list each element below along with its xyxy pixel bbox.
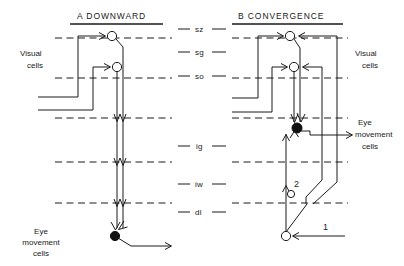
left-visual-cells-line1: Visual (20, 49, 42, 58)
layer-label-sz: sz (195, 25, 204, 34)
panel-b-return-afferent-upper (299, 33, 338, 47)
panel-b-soma-upper (285, 31, 294, 40)
panel-a-eye-movement-soma (110, 231, 119, 240)
panel-a-efferent-output (118, 238, 172, 250)
bottom-left-eye-line1: Eye (34, 227, 48, 236)
layer-row-sz: sz (178, 25, 226, 34)
layer-label-sg: sg (195, 48, 204, 57)
layer-label-ig: ig (196, 142, 203, 151)
panel-a-axon-arrowheads (114, 114, 126, 207)
right-visual-cells-line1: Visual (355, 49, 377, 58)
panel-b-descend-fiber-inner (306, 78, 322, 204)
panel-b-efferent-output (301, 131, 353, 139)
panel-b-title-group: B CONVERGENCE (232, 11, 343, 24)
right-visual-cells-line2: cells (362, 61, 378, 70)
panel-a-soma-lower (112, 62, 121, 71)
panel-b-title: B CONVERGENCE (238, 11, 324, 21)
panel-b-marker-1-label: 1 (323, 222, 328, 232)
panel-a-afferent-upper (38, 33, 106, 98)
layer-label-column: sz sg so ig iw dl (178, 25, 226, 217)
right-visual-cells-label: Visual cells (355, 49, 378, 70)
panel-b-soma-marker-1 (281, 231, 290, 240)
panel-b-diagonal-link (286, 204, 307, 232)
layer-row-ig: ig (178, 142, 226, 151)
right-eye-line2: movement (355, 130, 393, 139)
panel-a-circuit (38, 31, 172, 249)
bottom-left-eye-line3: cells (33, 249, 49, 258)
panel-a-title: A DOWNWARD (77, 11, 146, 21)
bottom-left-eye-line2: movement (22, 238, 60, 247)
right-eye-line1: Eye (358, 118, 372, 127)
panel-b-return-afferent-lower (303, 64, 323, 79)
right-eye-movement-label: Eye movement cells (355, 118, 393, 151)
layer-row-dl: dl (178, 208, 226, 217)
layer-label-so: so (195, 72, 204, 81)
panel-b-marker-2-label: 2 (294, 179, 299, 189)
left-visual-cells-label: Visual cells (20, 49, 43, 70)
panel-a-title-group: A DOWNWARD (70, 11, 163, 24)
panel-b-marker-1-input (293, 233, 346, 240)
panel-b-descend-fiber-outer (313, 46, 337, 204)
panel-b-soma-lower (289, 62, 298, 71)
panel-a-soma-upper (107, 31, 116, 40)
panel-b-afferent-upper (232, 33, 284, 99)
laminar-boundaries (55, 38, 348, 203)
panel-a-afferent-lower (38, 64, 111, 111)
layer-label-dl: dl (195, 208, 202, 217)
panel-b-soma-marker-2 (287, 190, 294, 197)
figure-canvas: A DOWNWARD B CONVERGENCE sz sg so ig (0, 0, 404, 266)
layer-row-sg: sg (178, 48, 226, 57)
layer-row-iw: iw (178, 180, 226, 189)
right-eye-line3: cells (362, 142, 378, 151)
left-visual-cells-line2: cells (27, 61, 43, 70)
panel-b-convergence-soma (292, 123, 302, 133)
panel-b-circuit: 2 1 (232, 31, 353, 240)
panel-b-afferent-lower (232, 64, 288, 113)
layer-label-iw: iw (195, 180, 203, 189)
panel-b-axon-upper (294, 39, 300, 122)
layer-row-so: so (178, 72, 226, 81)
bottom-left-eye-movement-label: Eye movement cells (22, 227, 60, 258)
